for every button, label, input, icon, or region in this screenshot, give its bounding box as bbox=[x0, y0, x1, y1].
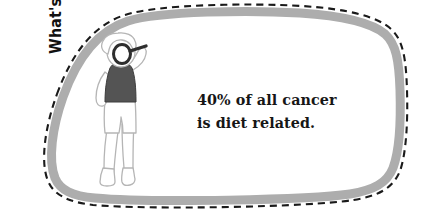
fact-text-block: 40% of all cancer is diet related. bbox=[197, 89, 377, 135]
fact-line-2: is diet related. bbox=[197, 112, 377, 135]
fact-line-1: 40% of all cancer bbox=[197, 89, 377, 112]
person-with-magnifying-glass-illustration bbox=[88, 32, 168, 192]
callout-content: What's the Dirt? bbox=[0, 0, 425, 217]
whats-the-dirt-callout: What's the Dirt? bbox=[0, 0, 425, 217]
foot-right-shape bbox=[122, 168, 135, 185]
foot-left-shape bbox=[100, 168, 115, 186]
shorts-shape bbox=[104, 100, 136, 133]
vertical-heading-label: What's the Dirt? bbox=[47, 0, 65, 54]
vertical-heading: What's the Dirt? bbox=[43, 0, 69, 54]
